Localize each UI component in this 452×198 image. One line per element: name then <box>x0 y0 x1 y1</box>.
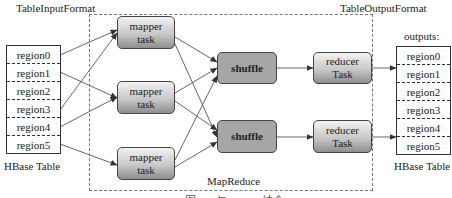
mapper-task-1-line1: mapper <box>130 20 163 33</box>
input-region-3: region3 <box>7 100 60 118</box>
mapper-task-1: mapper task <box>117 16 175 49</box>
mapper-task-3-line1: mapper <box>130 151 163 164</box>
mapper-task-1-line2: task <box>137 33 155 46</box>
reducer-task-2-line1: reducer <box>326 124 359 137</box>
shuffle-2-label: shuffle <box>231 130 263 143</box>
shuffle-1: shuffle <box>217 52 277 84</box>
mapper-task-2-line1: mapper <box>130 85 163 98</box>
input-region-1: region1 <box>7 64 60 82</box>
table-input-format-label: TableInputFormat <box>16 2 95 14</box>
output-region-2: region2 <box>397 83 450 101</box>
input-region-5: region5 <box>7 136 60 154</box>
shuffle-2: shuffle <box>217 120 277 153</box>
output-region-0: region0 <box>397 47 450 65</box>
input-region-2: region2 <box>7 82 60 100</box>
input-region-4: region4 <box>7 118 60 136</box>
output-table-name: HBase Table <box>394 160 450 172</box>
outputs-label: outputs: <box>404 30 439 42</box>
mapreduce-label: MapReduce <box>207 175 260 187</box>
figure-caption: 图 6-3 与 HBase 结合 MapReduce <box>185 192 340 198</box>
reducer-task-1-line2: Task <box>332 68 353 81</box>
shuffle-1-label: shuffle <box>231 62 263 75</box>
output-region-1: region1 <box>397 65 450 83</box>
input-region-0: region0 <box>7 46 60 64</box>
table-output-format-label: TableOutputFormat <box>340 2 427 14</box>
mapper-task-2: mapper task <box>117 81 175 114</box>
output-region-3: region3 <box>397 101 450 119</box>
mapper-task-3-line2: task <box>137 164 155 177</box>
input-table-name: HBase Table <box>4 160 60 172</box>
reducer-task-1: reducer Task <box>313 52 372 84</box>
reducer-task-1-line1: reducer <box>326 55 359 68</box>
mapper-task-2-line2: task <box>137 98 155 111</box>
output-region-5: region5 <box>397 137 450 155</box>
input-hbase-table: region0 region1 region2 region3 region4 … <box>6 45 61 154</box>
reducer-task-2: reducer Task <box>313 120 372 153</box>
reducer-task-2-line2: Task <box>332 137 353 150</box>
mapper-task-3: mapper task <box>117 147 175 180</box>
output-hbase-table: region0 region1 region2 region3 region4 … <box>396 46 451 155</box>
output-region-4: region4 <box>397 119 450 137</box>
